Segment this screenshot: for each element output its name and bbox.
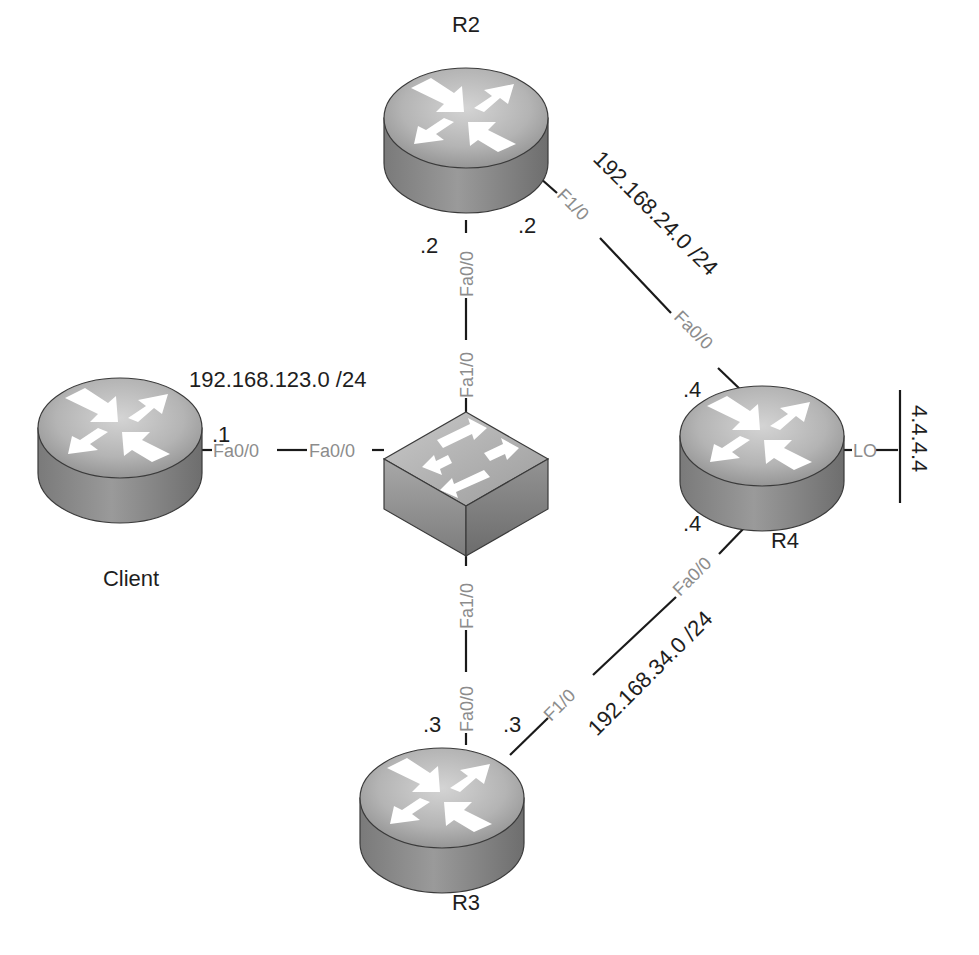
- network-link34: 192.168.34.0 /24: [583, 606, 717, 740]
- if-r2-fa00: Fa0/0: [457, 251, 477, 297]
- if-switch-fa10-top: Fa1/0: [457, 352, 477, 398]
- if-client-fa00: Fa0/0: [213, 441, 259, 461]
- ip-r2-f10: .2: [518, 213, 536, 238]
- ip-r2-fa00: .2: [420, 233, 438, 258]
- if-r4-fa00-bottom: Fa0/0: [669, 553, 716, 600]
- if-r3-fa00: Fa0/0: [457, 686, 477, 732]
- if-r2-f10: F1/0: [553, 185, 593, 225]
- switch[interactable]: [384, 412, 548, 556]
- router-client[interactable]: [38, 378, 202, 523]
- if-r4-lo: LO: [853, 441, 877, 461]
- network-lan123: 192.168.123.0 /24: [189, 367, 366, 392]
- ip-r3-fa00: .3: [423, 712, 441, 737]
- label-client: Client: [103, 566, 159, 591]
- router-r3[interactable]: [360, 748, 524, 893]
- link-r4-fa00-bottom-stub: [719, 527, 745, 554]
- label-r4: R4: [771, 528, 799, 553]
- label-r2: R2: [452, 12, 480, 37]
- router-r4[interactable]: [680, 386, 844, 531]
- ip-r3-f10: .3: [503, 712, 521, 737]
- network-loopback: 4.4.4.4: [907, 405, 932, 472]
- ip-r4-bottom: .4: [683, 511, 701, 536]
- label-r3: R3: [452, 890, 480, 915]
- network-diagram: R2 Client R4 R3 192.168.123.0 /24 192.16…: [0, 0, 979, 955]
- ip-r4-top: .4: [683, 377, 701, 402]
- if-switch-fa00: Fa0/0: [309, 441, 355, 461]
- link-r2-r4: [600, 238, 671, 313]
- router-r2[interactable]: [384, 68, 548, 213]
- network-link24: 192.168.24.0 /24: [588, 146, 722, 280]
- if-r4-fa00-top: Fa0/0: [670, 307, 717, 354]
- if-switch-fa10-bottom: Fa1/0: [457, 583, 477, 629]
